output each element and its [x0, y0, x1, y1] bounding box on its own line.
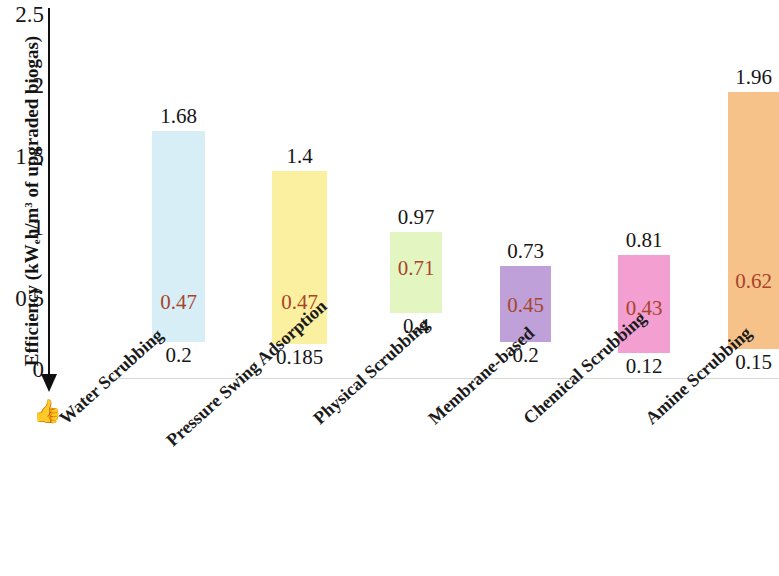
- bar-max-label: 0.81: [608, 230, 680, 251]
- bar-mid-label: 0.47: [146, 292, 211, 313]
- bar-max-label: 1.96: [718, 67, 779, 88]
- bar-max-label: 0.73: [490, 241, 561, 262]
- bar-mid-label: 0.71: [384, 258, 448, 279]
- bar-max-label: 0.97: [380, 207, 452, 228]
- bar-mid-label: 0.45: [494, 295, 557, 316]
- bar[interactable]: [728, 92, 779, 349]
- bar-min-label: 0.12: [604, 356, 684, 377]
- bar-mid-label: 0.62: [722, 271, 779, 292]
- bar-max-label: 1.4: [262, 146, 337, 167]
- chart-root: Efficiency (kWeh/m3 of upgraded biogas) …: [0, 0, 779, 576]
- x-axis-category-labels: Water ScrubbingPressure Swing Adsorption…: [0, 396, 779, 576]
- bar-max-label: 1.68: [142, 106, 215, 127]
